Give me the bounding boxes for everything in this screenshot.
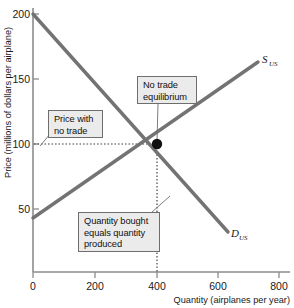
supply-curve-letter: S xyxy=(262,53,268,65)
y-axis-title: Price (millions of dollars per airplane) xyxy=(3,27,13,178)
supply-curve-label: S US xyxy=(262,53,278,68)
y-tick-label-50: 50 xyxy=(18,203,30,215)
callout-price-line2: no trade xyxy=(54,126,98,138)
leader-line-equilibrium xyxy=(157,104,158,141)
demand-curve-letter: D xyxy=(230,227,239,239)
callout-quantity-bought-equals-produced: Quantity bought equals quantity produced xyxy=(78,212,160,252)
chart-canvas: 200 150 100 50 0 200 400 600 800 Quantit… xyxy=(0,0,294,308)
y-axis-ticks xyxy=(33,14,39,209)
x-tick-label-800: 800 xyxy=(270,280,288,292)
x-tick-label-400: 400 xyxy=(148,280,166,292)
x-tick-label-200: 200 xyxy=(86,280,104,292)
x-tick-label-600: 600 xyxy=(209,280,227,292)
supply-demand-chart: 200 150 100 50 0 200 400 600 800 Quantit… xyxy=(0,0,294,308)
x-tick-label-0: 0 xyxy=(30,280,36,292)
callout-quantity-line1: Quantity bought xyxy=(84,216,155,228)
callout-price-with-no-trade: Price with no trade xyxy=(48,110,103,138)
x-axis-title: Quantity (airplanes per year) xyxy=(174,295,290,305)
x-axis-tick-labels: 0 200 400 600 800 xyxy=(30,280,288,292)
y-tick-label-200: 200 xyxy=(12,8,30,20)
leader-line-quantity xyxy=(152,196,170,212)
y-tick-label-100: 100 xyxy=(12,138,30,150)
demand-curve-label: D US xyxy=(230,227,248,242)
y-axis-tick-labels: 200 150 100 50 xyxy=(12,8,30,215)
x-axis-ticks xyxy=(33,272,279,278)
callout-equilibrium-line2: equilibrium xyxy=(143,92,192,104)
callout-no-trade-equilibrium: No trade equilibrium xyxy=(137,76,197,104)
y-tick-label-150: 150 xyxy=(12,73,30,85)
axes-group xyxy=(33,8,290,272)
callout-price-line1: Price with xyxy=(54,114,98,126)
guide-lines-group xyxy=(34,144,157,272)
callout-quantity-line3: produced xyxy=(84,239,155,251)
equilibrium-point-marker xyxy=(152,139,162,149)
callout-quantity-line2: equals quantity xyxy=(84,228,155,240)
demand-curve-subscript: US xyxy=(239,234,248,242)
supply-curve-subscript: US xyxy=(269,60,278,68)
callout-equilibrium-line1: No trade xyxy=(143,80,192,92)
